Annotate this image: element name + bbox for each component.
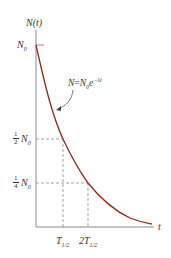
half-denominator: 2 bbox=[13, 139, 19, 146]
y-tick-half-fraction: 1 2 bbox=[13, 131, 19, 146]
decay-curve bbox=[36, 45, 152, 224]
equation-arrow bbox=[58, 90, 73, 109]
x-axis-label-text: t bbox=[158, 221, 161, 232]
equation-label: N=N0e−λt bbox=[68, 77, 102, 90]
t-half-sub: 1/2 bbox=[62, 242, 70, 248]
x-tick-t-half: T1/2 bbox=[56, 236, 69, 248]
y-tick-quarter-n0: N0 bbox=[21, 178, 31, 190]
n0-text: N bbox=[17, 39, 24, 50]
arrowhead-icon bbox=[56, 106, 61, 111]
half-life-guides bbox=[36, 139, 88, 227]
half-n0-sub: 0 bbox=[28, 140, 31, 146]
y-axis-label-text: N(t) bbox=[26, 17, 42, 28]
quarter-n0-sub: 0 bbox=[28, 184, 31, 190]
y-tick-n0: N0 bbox=[17, 40, 27, 52]
half-n0-text: N bbox=[21, 133, 28, 144]
quarter-n0-text: N bbox=[21, 177, 28, 188]
two-t-half-text: 2T bbox=[79, 235, 90, 246]
decay-chart bbox=[0, 0, 171, 258]
quarter-denominator: 4 bbox=[13, 183, 19, 190]
y-tick-half-n0: N0 bbox=[21, 134, 31, 146]
n0-sub: 0 bbox=[24, 46, 27, 52]
x-axis-label: t bbox=[158, 222, 161, 232]
y-tick-quarter-fraction: 1 4 bbox=[13, 175, 19, 190]
two-t-half-sub: 1/2 bbox=[90, 242, 98, 248]
x-tick-two-t-half: 2T1/2 bbox=[79, 236, 97, 248]
y-axis-label: N(t) bbox=[26, 18, 42, 28]
eq-exponent: −λt bbox=[93, 77, 101, 83]
